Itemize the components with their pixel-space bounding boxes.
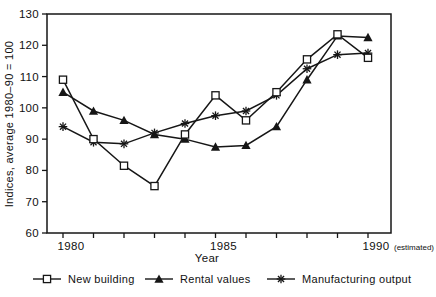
svg-text:70: 70	[26, 196, 39, 208]
asterisk-marker-icon	[266, 272, 296, 286]
svg-text:80: 80	[26, 164, 39, 176]
svg-text:110: 110	[20, 71, 39, 83]
legend-label-rental-values: Rental values	[180, 273, 251, 285]
legend-item-new-building: New building	[32, 271, 135, 287]
svg-text:90: 90	[26, 133, 39, 145]
open-square-marker-icon	[32, 272, 62, 286]
svg-text:1985: 1985	[210, 240, 237, 252]
y-axis-title: Indices, average 1980–90 = 100	[3, 9, 17, 239]
svg-text:60: 60	[26, 227, 39, 239]
x-axis-title: Year	[107, 252, 307, 264]
svg-text:1980: 1980	[58, 240, 85, 252]
legend-label-new-building: New building	[68, 273, 135, 285]
svg-text:130: 130	[19, 8, 39, 20]
legend-label-manufacturing-output: Manufacturing output	[302, 273, 411, 285]
svg-text:120: 120	[19, 39, 39, 51]
line-chart-figure: 60708090100110120130198019851990(estimat…	[0, 0, 436, 297]
legend: New building Rental values Manufacturing…	[0, 271, 436, 289]
svg-text:1990: 1990	[363, 240, 390, 252]
svg-text:100: 100	[19, 102, 39, 114]
legend-item-rental-values: Rental values	[144, 271, 251, 287]
filled-triangle-marker-icon	[144, 272, 174, 286]
svg-text:(estimated): (estimated)	[394, 243, 434, 252]
legend-item-manufacturing-output: Manufacturing output	[266, 271, 411, 287]
